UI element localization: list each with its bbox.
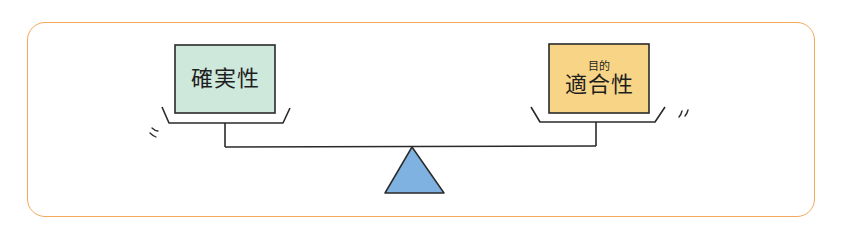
fulcrum-triangle bbox=[385, 147, 444, 193]
right-motion-marks-icon bbox=[679, 110, 688, 117]
balance-scale-illustration bbox=[0, 0, 846, 233]
left-weight-box bbox=[175, 45, 275, 113]
beam bbox=[225, 146, 596, 147]
left-motion-marks-icon bbox=[150, 128, 158, 137]
right-weight-box bbox=[549, 44, 649, 113]
